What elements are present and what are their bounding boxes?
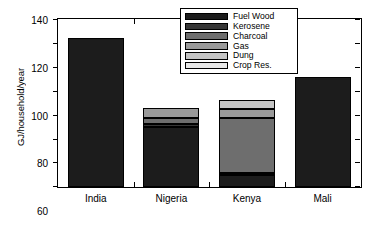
bar-segment-fuel-wood (68, 38, 124, 187)
y-axis-tick-label: 140 (31, 15, 48, 26)
x-axis-tick-label: Kenya (233, 193, 261, 204)
bar-segment-dung (219, 100, 275, 110)
y-axis-tick-mirror (355, 43, 360, 44)
legend-item-crop-res[interactable]: Crop Res. (185, 61, 293, 70)
y-axis-tick-mirror (355, 115, 360, 116)
y-axis-tick-label: 100 (31, 110, 48, 121)
legend-item-dung[interactable]: Dung (185, 51, 293, 60)
legend-label: Gas (233, 42, 249, 51)
x-axis-tick (285, 182, 286, 187)
x-axis-tick (209, 182, 210, 187)
y-axis-tick-mirror (355, 91, 360, 92)
legend-swatch (185, 13, 228, 21)
y-axis-tick: 140 (53, 19, 58, 20)
legend-label: Dung (233, 51, 254, 60)
y-axis-tick-mirror (355, 162, 360, 163)
bar-segment-gas (219, 109, 275, 117)
x-axis-tick-mirror (134, 19, 135, 24)
legend-swatch (185, 52, 228, 60)
legend-label: Fuel Wood (233, 12, 274, 21)
bar-segment-charcoal (143, 118, 199, 124)
x-axis-tick-label: Nigeria (156, 193, 188, 204)
legend-item-gas[interactable]: Gas (185, 41, 293, 50)
y-axis-tick: 20 (53, 162, 58, 163)
bar-segment-fuel-wood (143, 127, 199, 187)
y-axis-tick: 40 (53, 139, 58, 140)
legend-label: Kerosene (233, 22, 270, 31)
bar-segment-fuel-wood (295, 77, 351, 187)
legend-swatch (185, 32, 228, 40)
y-axis-tick-mirror (355, 67, 360, 68)
bar-india (68, 20, 124, 187)
y-axis-tick-label: 80 (37, 158, 48, 169)
legend-label: Charcoal (233, 32, 267, 41)
y-axis-label: GJ/household/year (13, 42, 27, 172)
bar-segment-fuel-wood (219, 175, 275, 187)
x-axis-tick-label: Mali (313, 193, 331, 204)
y-axis-tick-mirror (355, 19, 360, 20)
legend-swatch (185, 23, 228, 31)
y-axis-tick: 60 (53, 115, 58, 116)
y-axis-tick-mirror (355, 139, 360, 140)
x-axis-tick (134, 182, 135, 187)
bar-segment-gas (143, 108, 199, 118)
y-axis-tick-label: 120 (31, 62, 48, 73)
y-axis-tick-label: 60 (37, 206, 48, 217)
legend-label: Crop Res. (233, 61, 272, 70)
bar-segment-kerosene (219, 173, 275, 175)
legend-item-fuel-wood[interactable]: Fuel Wood (185, 12, 293, 21)
legend-swatch (185, 42, 228, 50)
legend-item-kerosene[interactable]: Kerosene (185, 22, 293, 31)
y-axis-tick: 100 (53, 67, 58, 68)
bar-segment-kerosene (143, 124, 199, 128)
y-axis-tick-mirror (355, 186, 360, 187)
x-axis-tick-label: India (85, 193, 107, 204)
y-axis-tick: 0 (53, 186, 58, 187)
legend: Fuel WoodKeroseneCharcoalGasDungCrop Res… (180, 8, 298, 74)
bar-mali (295, 20, 351, 187)
figure: GJ/household/year 020406080100120140Indi… (0, 0, 382, 225)
legend-item-charcoal[interactable]: Charcoal (185, 32, 293, 41)
y-axis-tick: 120 (53, 43, 58, 44)
y-axis-tick: 80 (53, 91, 58, 92)
bar-segment-charcoal (219, 118, 275, 173)
legend-swatch (185, 62, 228, 70)
